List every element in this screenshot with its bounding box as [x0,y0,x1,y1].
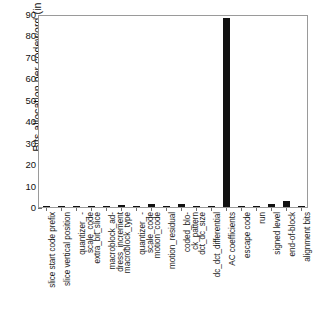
x-axis-tick-label: dc_dct_differential [214,212,223,308]
x-axis-tick-mark [226,208,227,211]
x-axis-tick-label: end-of-block [289,212,298,308]
y-axis-tick-label: 30 [0,138,36,150]
bar [148,204,155,207]
bar [298,206,305,207]
y-axis-tick-label: 40 [0,116,36,128]
x-axis-tick-mark [151,208,152,211]
plot-area [38,15,308,208]
x-axis-tick-label: macroblock_type [124,212,133,308]
x-axis-tick-label: dct_dc_size [199,212,208,308]
x-axis-tick-mark [61,208,62,211]
bar [163,206,170,207]
x-axis-tick-mark [76,208,77,211]
y-axis-tick-label: 10 [0,181,36,193]
x-axis-tick-mark [286,208,287,211]
y-axis-tick-mark [38,208,42,209]
bar [88,206,95,207]
bar [118,205,125,207]
x-axis-tick-mark [271,208,272,211]
x-axis-tick-mark [241,208,242,211]
x-axis-tick-mark [91,208,92,211]
x-axis-tick-mark [121,208,122,211]
x-axis-tick-label: escape code [244,212,253,308]
x-axis-tick-mark [136,208,137,211]
bar [43,206,50,207]
y-axis-tick-label: 60 [0,73,36,85]
bar [178,204,185,207]
bar [238,206,245,207]
y-axis-tick-label: 70 [0,52,36,64]
y-axis-tick-label: 80 [0,30,36,42]
x-axis-tick-mark [211,208,212,211]
x-axis-tick-mark [46,208,47,211]
y-axis-tick-label: 50 [0,95,36,107]
bar [223,18,230,207]
x-axis-tick-label: alignment bits [304,212,313,308]
x-axis-tick-mark [196,208,197,211]
x-axis-tick-label: extra_bit_slice [94,212,103,308]
bar [253,206,260,207]
x-axis-tick-label: slice vertical position [64,212,73,308]
bar [283,201,290,207]
x-axis-tick-mark [181,208,182,211]
bar [73,206,80,207]
x-axis-tick-mark [166,208,167,211]
bar [58,206,65,207]
x-axis-tick-label: AC coefficients [229,212,238,308]
y-axis-tick-label: 0 [0,202,36,214]
x-axis-tick-label: motion_code [154,212,163,308]
x-axis-tick-label: motion_residual [169,212,178,308]
bar [133,206,140,207]
x-axis-tick-mark [301,208,302,211]
x-axis-tick-label: slice start code prefix [49,212,58,308]
x-axis-tick-label: signed level [274,212,283,308]
x-axis-tick-label: run [259,212,268,308]
bar [193,206,200,207]
bar [103,206,110,207]
bar [208,206,215,207]
x-axis-tick-mark [106,208,107,211]
y-axis-tick-label: 90 [0,9,36,21]
y-axis-tick-label: 20 [0,159,36,171]
x-axis-tick-mark [256,208,257,211]
bar [268,204,275,207]
chart-figure: Bits allocation per codeword (in %) 0102… [0,0,325,309]
